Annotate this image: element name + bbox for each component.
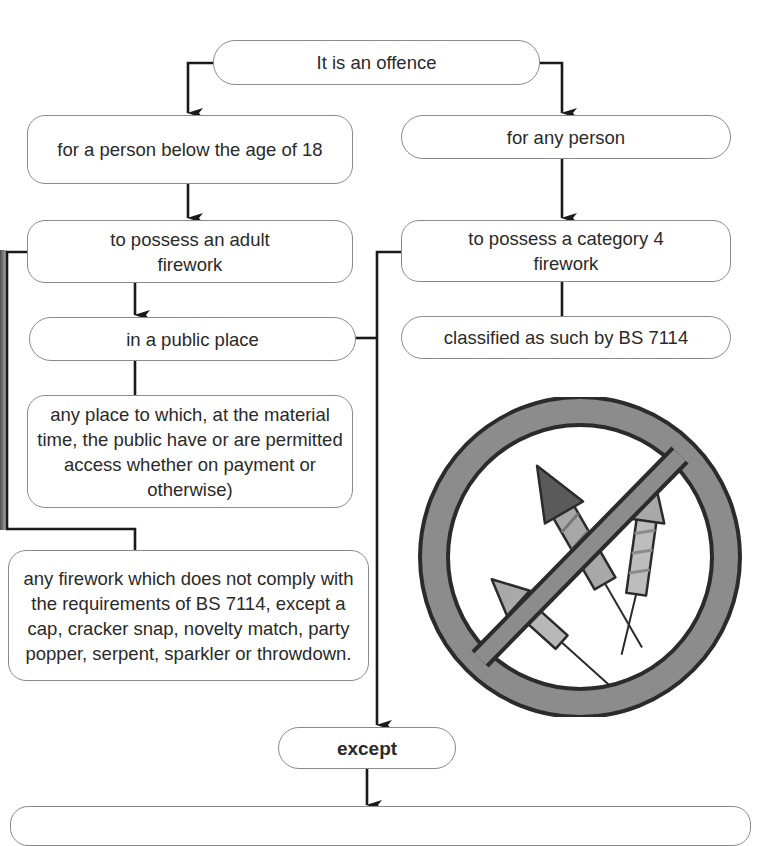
node-left-who: for a person below the age of 18: [27, 115, 353, 184]
node-adult-firework-definition: any firework which does not comply with …: [8, 550, 369, 681]
node-left-where: in a public place: [29, 317, 356, 361]
node-exception: except: [278, 727, 456, 769]
node-left-what: to possess an adult firework: [27, 220, 353, 283]
node-next-box: [10, 806, 751, 846]
node-public-place-definition: any place to which, at the material time…: [27, 395, 353, 508]
arrow-root-to-left: [188, 63, 213, 113]
node-right-what: to possess a category 4 firework: [401, 220, 731, 282]
arrow-root-to-right: [540, 63, 562, 113]
node-right-who: for any person: [401, 115, 731, 159]
node-root: It is an offence: [213, 40, 540, 85]
no-fireworks-sign-icon: [412, 397, 748, 717]
node-right-classification: classified as such by BS 7114: [401, 316, 731, 359]
arrow-to-except: [377, 252, 401, 725]
